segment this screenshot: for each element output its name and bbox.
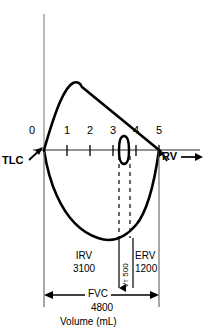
erv-label: ERV [135, 251, 155, 261]
vt-label-spacer [121, 277, 130, 279]
tlc-label: TLC [2, 155, 23, 166]
x-tick-label-1: 1 [64, 125, 70, 136]
fvc-value: 4800 [82, 303, 122, 313]
rv-direction-arrow [181, 153, 203, 161]
flow-volume-chart-svg [0, 0, 207, 331]
x-tick-label-0: 0 [29, 125, 35, 136]
vt-label-letter: V [121, 283, 130, 288]
erv-value: 1200 [135, 264, 157, 274]
x-tick-label-4: 4 [133, 125, 139, 136]
fvc-label: FVC [85, 289, 111, 299]
tlc-pointer-arrow [29, 147, 43, 160]
irv-label: IRV [67, 251, 101, 261]
flow-volume-loop-figure: 0 1 2 3 4 5 TLC RV IRV 3100 VT 500 ERV 1… [0, 0, 207, 331]
x-tick-label-2: 2 [87, 125, 93, 136]
x-tick-label-5: 5 [156, 125, 162, 136]
rv-label: RV [162, 151, 177, 162]
vt-value: 500 [121, 263, 130, 276]
x-tick-label-3: 3 [110, 125, 116, 136]
irv-value: 3100 [65, 264, 103, 274]
vt-label-subscript: T [123, 279, 129, 283]
expiratory-limb-curve [44, 82, 159, 150]
inspiratory-limb-curve [44, 150, 159, 240]
vt-label-text: VT 500 [122, 263, 130, 288]
x-axis-title: Volume (mL) [60, 317, 117, 327]
